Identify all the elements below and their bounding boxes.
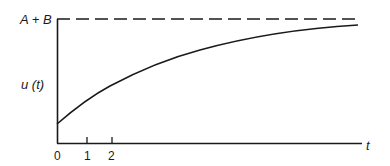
x-tick-label-2: 2 [108, 149, 115, 163]
u-curve [57, 25, 358, 124]
asymptote-label: A + B [19, 12, 52, 27]
chart-canvas: A + B u (t) t 0 1 2 [0, 0, 390, 166]
x-tick-label-0: 0 [54, 149, 61, 163]
y-axis-label: u (t) [21, 77, 44, 92]
x-axis-label: t [366, 138, 371, 153]
x-tick-label-1: 1 [84, 149, 91, 163]
